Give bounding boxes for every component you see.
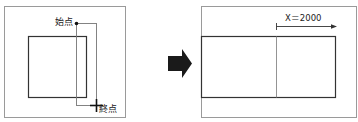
start-point-label: 始点 — [55, 18, 73, 27]
dimension-label: X＝2000 — [285, 14, 321, 23]
after-panel-frame — [202, 7, 357, 118]
start-point-dot — [75, 22, 79, 26]
end-point-label: 終点 — [99, 105, 117, 114]
transition-arrow-icon — [168, 49, 192, 78]
